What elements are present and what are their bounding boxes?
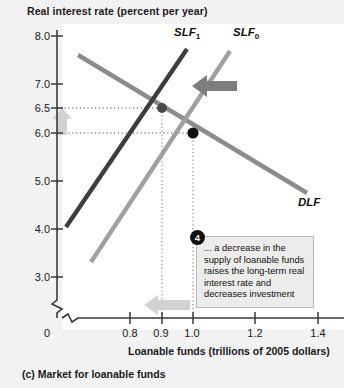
chart-svg <box>0 0 344 388</box>
interest-rate-rise-arrow-icon <box>52 108 72 135</box>
figure-panel-c: Real interest rate (percent per year) 8.… <box>0 0 344 388</box>
axis-break-icon <box>52 292 62 318</box>
equilibrium-point-new <box>157 103 167 113</box>
investment-decrease-arrow-icon <box>144 295 190 315</box>
curve-dlf <box>78 55 307 193</box>
curve-slf1 <box>66 49 187 227</box>
curve-label-dlf: DLF <box>298 196 320 208</box>
callout-step-badge: 4 <box>190 230 205 245</box>
x-axis-line <box>62 314 344 322</box>
curve-label-slf0-text: SLF <box>233 26 255 38</box>
equilibrium-point-original <box>187 127 198 138</box>
curve-label-slf0: SLF0 <box>233 26 259 41</box>
callout-text: ... a decrease in the supply of loanable… <box>204 243 304 299</box>
x-axis-title: Loanable funds (trillions of 2005 dollar… <box>128 345 330 357</box>
callout-box: ... a decrease in the supply of loanable… <box>196 236 314 308</box>
curve-label-slf1-subscript: 1 <box>196 32 200 41</box>
curve-label-slf1: SLF1 <box>174 26 200 41</box>
curve-label-slf0-subscript: 0 <box>255 32 259 41</box>
curve-label-slf1-text: SLF <box>174 26 196 38</box>
figure-caption: (c) Market for loanable funds <box>22 368 166 380</box>
